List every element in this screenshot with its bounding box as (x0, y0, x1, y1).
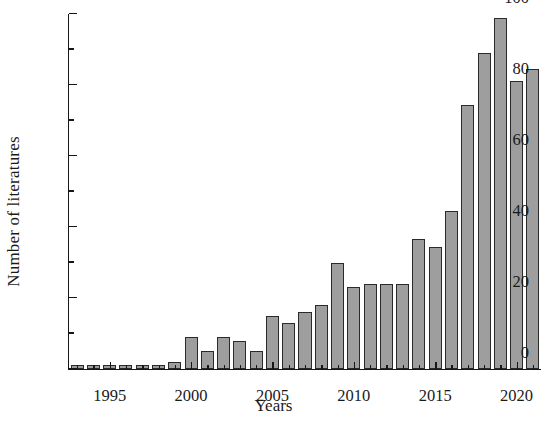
y-tick-label: 80 (513, 60, 530, 77)
bar (429, 247, 442, 369)
plot-area: 020406080100 199520002005201020152020 (69, 14, 541, 369)
x-tick-label: 2020 (500, 388, 533, 405)
bar (445, 211, 458, 369)
y-tick-minor (69, 332, 74, 333)
y-tick-minor (69, 119, 74, 120)
x-tick-major (272, 362, 273, 369)
x-tick-label: 2015 (419, 388, 452, 405)
y-tick-minor (69, 48, 74, 49)
x-tick-major (191, 362, 192, 369)
x-tick-minor (305, 365, 306, 369)
bar (266, 316, 279, 369)
y-tick-label: 60 (513, 131, 530, 148)
x-tick-major (517, 362, 518, 369)
x-tick-minor (468, 365, 469, 369)
y-tick-major (69, 226, 77, 227)
bar (461, 105, 474, 369)
bar (494, 18, 507, 369)
x-tick-minor (93, 365, 94, 369)
x-tick-label: 2010 (337, 388, 370, 405)
bar (298, 312, 311, 369)
y-axis-title: Number of literatures (0, 0, 28, 423)
x-tick-minor (289, 365, 290, 369)
x-tick-minor (321, 365, 322, 369)
x-tick-major (110, 362, 111, 369)
x-tick-minor (370, 365, 371, 369)
x-tick-minor (386, 365, 387, 369)
y-tick-label: 100 (504, 0, 529, 6)
x-tick-minor (224, 365, 225, 369)
x-tick-minor (175, 365, 176, 369)
x-tick-minor (142, 365, 143, 369)
bar (478, 53, 491, 369)
y-tick-label: 40 (513, 202, 530, 219)
y-tick-minor (69, 261, 74, 262)
bar (315, 305, 328, 369)
bar (510, 81, 523, 369)
y-tick-major (69, 84, 77, 85)
x-tick-minor (77, 365, 78, 369)
x-tick-minor (533, 365, 534, 369)
x-tick-minor (451, 365, 452, 369)
x-tick-minor (159, 365, 160, 369)
x-tick-minor (419, 365, 420, 369)
bar (347, 287, 360, 369)
bar (364, 284, 377, 369)
bar-chart-figure: Number of literatures Years 020406080100… (0, 0, 547, 423)
y-axis-spine (68, 14, 69, 370)
x-tick-label: 2000 (175, 388, 208, 405)
x-tick-minor (207, 365, 208, 369)
bar (412, 239, 425, 369)
x-tick-minor (500, 365, 501, 369)
x-tick-major (435, 362, 436, 369)
x-tick-minor (126, 365, 127, 369)
y-tick-major (69, 155, 77, 156)
bar (331, 263, 344, 370)
x-tick-minor (403, 365, 404, 369)
x-tick-label: 2005 (256, 388, 289, 405)
bar (380, 284, 393, 369)
y-tick-major (69, 297, 77, 298)
x-tick-label: 1995 (93, 388, 126, 405)
x-tick-minor (256, 365, 257, 369)
x-tick-major (354, 362, 355, 369)
y-tick-major (69, 368, 77, 369)
bar (396, 284, 409, 369)
bar (282, 323, 295, 369)
y-tick-label: 20 (513, 273, 530, 290)
x-tick-minor (240, 365, 241, 369)
y-tick-minor (69, 190, 74, 191)
y-tick-major (69, 13, 77, 14)
x-tick-minor (338, 365, 339, 369)
y-tick-label: 0 (521, 344, 529, 361)
x-tick-minor (484, 365, 485, 369)
